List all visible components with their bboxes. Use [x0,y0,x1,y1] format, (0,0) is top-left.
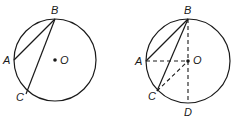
right-label-o: O [193,54,202,66]
right-label-b: B [184,4,191,16]
left-figure: B A C O [2,4,96,103]
left-label-b: B [51,4,58,16]
left-label-c: C [16,91,24,103]
right-label-a: A [134,55,142,67]
geometry-diagram: B A C O B A C O D [0,0,235,119]
right-label-d: D [184,106,192,118]
right-label-c: C [148,90,156,102]
right-center-dot [186,59,190,63]
right-chord-bc [157,19,188,91]
left-label-a: A [2,54,10,66]
left-label-o: O [60,54,69,66]
left-center-dot [53,58,57,62]
right-figure: B A C O D [134,4,230,118]
right-dashed-co [157,61,188,91]
left-chord-bc [26,19,55,94]
